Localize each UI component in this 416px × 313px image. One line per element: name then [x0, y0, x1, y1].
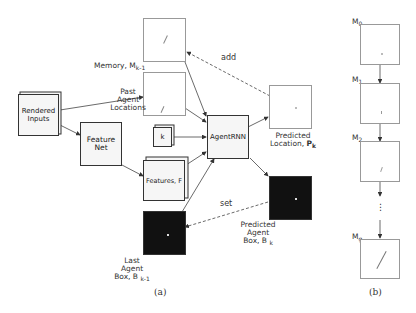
memory-mg-image	[360, 239, 400, 279]
location-dot	[381, 53, 383, 55]
predicted-location-image	[269, 85, 312, 129]
location-dot	[295, 107, 297, 109]
predicted-agent-box-label: Predicted Agent Box, B k	[230, 221, 286, 247]
predicted-location-label: Predicted Location, Pk	[265, 132, 321, 150]
agent-rnn-label: AgentRNN	[208, 133, 248, 141]
trajectory-mark	[381, 111, 382, 114]
features-label: Features, F	[144, 177, 184, 185]
rendered-inputs-label-2: Inputs	[19, 115, 58, 123]
k-node: k	[153, 127, 172, 147]
last-agent-box-label: Last Agent Box, B k-1	[104, 257, 160, 283]
features-node: Features, F	[143, 160, 185, 201]
trajectory-mark	[161, 106, 165, 113]
memory-m2-image	[360, 141, 400, 182]
past-agent-locations-label: Past Agent Locations	[108, 88, 148, 112]
memory-image	[143, 18, 186, 62]
rendered-inputs-label-1: Rendered	[19, 107, 58, 115]
rendered-inputs-node: Rendered Inputs	[18, 94, 59, 136]
ellipsis: ⋮	[376, 203, 385, 211]
agent-rnn-node: AgentRNN	[207, 115, 249, 159]
k-label: k	[154, 133, 171, 141]
edge-label-set: set	[220, 200, 232, 208]
feature-net-node: Feature Net	[80, 122, 122, 166]
last-agent-box-image	[143, 211, 186, 255]
caption-b: (b)	[369, 287, 382, 297]
trajectory-mark	[163, 35, 168, 44]
edge-label-add: add	[221, 54, 236, 62]
predicted-agent-box-image	[269, 176, 312, 220]
past-agent-locations-image	[143, 72, 186, 116]
memory-m0-image	[360, 24, 400, 65]
memory-m1-image	[360, 83, 400, 124]
trajectory-mark	[380, 167, 383, 172]
memory-label: Memory, Mk-1	[94, 62, 145, 72]
feature-net-label-2: Net	[81, 144, 121, 152]
caption-a: (a)	[154, 287, 166, 297]
location-dot	[295, 198, 297, 200]
trajectory-mark	[376, 251, 386, 269]
location-dot	[167, 234, 169, 236]
